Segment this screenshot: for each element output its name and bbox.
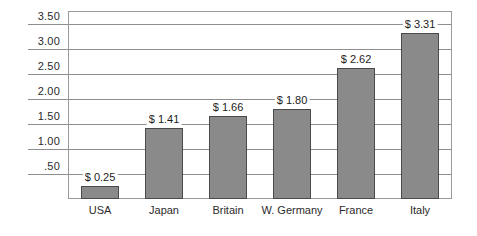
- bars-group: $ 0.25$ 1.41$ 1.66$ 1.80$ 2.62$ 3.31: [68, 11, 452, 199]
- x-axis-category-label: France: [339, 204, 373, 217]
- y-axis-tick-label: 1.50: [0, 110, 60, 122]
- bar-value-label: $ 1.80: [275, 94, 310, 106]
- bar-slot: $ 1.66: [196, 11, 260, 199]
- bar-chart: 3.503.002.502.001.501.00.50 $ 0.25$ 1.41…: [0, 0, 477, 236]
- bar-value-label: $ 3.31: [403, 18, 438, 30]
- bar[interactable]: [209, 116, 247, 199]
- bar-value-label: $ 2.62: [339, 53, 374, 65]
- y-axis-tick-label: 2.00: [0, 85, 60, 97]
- x-axis-category-label: Japan: [149, 204, 179, 217]
- x-axis-category-label: USA: [89, 204, 112, 217]
- bar-value-label: $ 0.25: [83, 171, 118, 183]
- bar[interactable]: [337, 68, 375, 199]
- bar-slot: $ 1.41: [132, 11, 196, 199]
- y-axis-tick-label: 1.00: [0, 135, 60, 147]
- bar-slot: $ 0.25: [68, 11, 132, 199]
- bar[interactable]: [145, 128, 183, 199]
- bar-slot: $ 1.80: [260, 11, 324, 199]
- bar[interactable]: [401, 33, 439, 199]
- bar[interactable]: [81, 186, 119, 199]
- x-axis-category-label: Britain: [212, 204, 243, 217]
- y-axis-tick-label: 3.50: [0, 10, 60, 22]
- bar-value-label: $ 1.41: [147, 113, 182, 125]
- bar-slot: $ 2.62: [324, 11, 388, 199]
- y-axis-tick-label: 3.00: [0, 35, 60, 47]
- bar[interactable]: [273, 109, 311, 199]
- x-axis-category-labels: USAJapanBritainW. GermanyFranceItaly: [68, 204, 452, 224]
- bar-slot: $ 3.31: [388, 11, 452, 199]
- y-axis-tick-label: .50: [0, 160, 60, 172]
- x-axis-category-label: W. Germany: [261, 204, 322, 217]
- bar-value-label: $ 1.66: [211, 101, 246, 113]
- y-axis-tick-label: 2.50: [0, 60, 60, 72]
- x-axis-category-label: Italy: [410, 204, 430, 217]
